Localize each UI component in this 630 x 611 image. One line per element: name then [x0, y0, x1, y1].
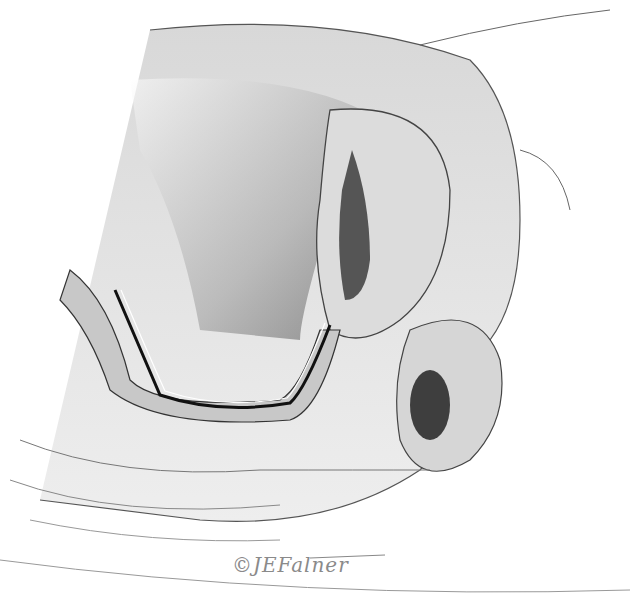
illustration-drawing [0, 0, 630, 611]
artist-signature: ©JEFalner [232, 553, 349, 577]
anatomical-illustration: ©JEFalner [0, 0, 630, 611]
